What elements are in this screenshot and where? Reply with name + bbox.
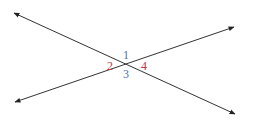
angle-label-2: 2 — [107, 59, 113, 73]
angle-label-1: 1 — [123, 48, 129, 62]
angle-label-4: 4 — [141, 59, 147, 73]
intersecting-lines-diagram: 1 2 3 4 — [0, 0, 263, 121]
line-a — [14, 13, 235, 114]
line-b — [15, 27, 234, 102]
angle-label-3: 3 — [123, 67, 129, 81]
